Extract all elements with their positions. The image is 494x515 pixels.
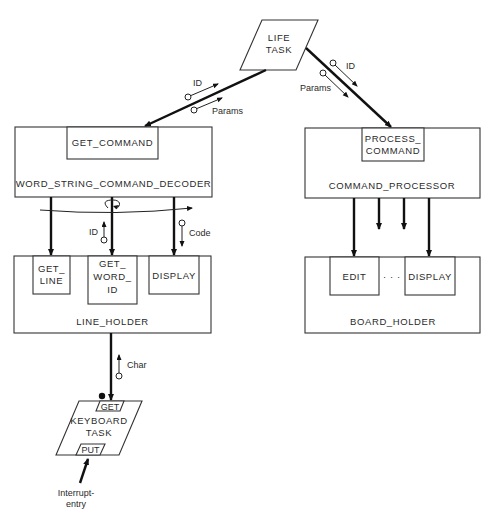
life-task-label-1: LIFE [268,32,290,43]
data-couple-icon [101,237,107,243]
get-word-id-label-2: WORD_ [93,271,131,282]
char-label: Char [127,360,147,370]
data-couple-icon [179,220,185,226]
left-id-label: ID [193,78,203,88]
line-display-label: DISPLAY [152,270,196,281]
board-display-label: DISPLAY [408,271,452,282]
code-label: Code [189,228,211,238]
interrupt-arrow [80,459,88,483]
word-id-label: ID [89,227,99,237]
get-entry-label: GET [101,402,120,412]
char-flow: Char [116,355,147,379]
life-task-label-2: TASK [266,44,293,55]
board-holder-label: BOARD_HOLDER [350,316,436,327]
left-params-label: Params [212,106,244,116]
get-command-label: GET_COMMAND [72,137,154,148]
left-id-flow: ID [185,78,218,100]
data-couple-icon [185,94,191,100]
data-couple-icon [191,107,197,113]
process-command-label-2: COMMAND [366,145,420,156]
ellipsis: · · · [383,271,401,282]
right-params-flow: Params [300,70,348,97]
processor-package: PROCESS_ COMMAND COMMAND_PROCESSOR [305,128,480,198]
get-word-id-label-3: ID [107,284,118,295]
edit-label: EDIT [342,271,366,282]
right-params-label: Params [300,83,332,93]
line-holder-package: GET_ LINE GET_ WORD_ ID DISPLAY LINE_HOL… [14,256,211,333]
code-flow: Code [179,220,211,246]
put-entry-label: PUT [82,445,101,455]
keyboard-task-label-1: KEYBOARD [70,415,128,426]
decoder-label: WORD_STRING_COMMAND_DECODER [16,178,212,189]
process-command-label-1: PROCESS_ [365,133,422,144]
word-id-flow: ID [89,222,107,243]
control-flag-icon [99,393,105,399]
decoder-package: GET_COMMAND WORD_STRING_COMMAND_DECODER [15,127,212,197]
data-couple-icon [116,373,122,379]
get-word-id-label-1: GET_ [99,258,126,269]
processor-label: COMMAND_PROCESSOR [329,180,455,191]
interrupt-label-2: entry [66,499,87,509]
line-holder-label: LINE_HOLDER [76,316,149,327]
right-id-label: ID [346,61,356,71]
board-holder-package: EDIT · · · DISPLAY BOARD_HOLDER [305,257,480,333]
interrupt-label-1: Interrupt- [58,488,95,498]
keyboard-task-label-2: TASK [86,427,113,438]
call-arrow-life-to-get-command [145,70,266,126]
get-line-label-1: GET_ [38,263,65,274]
keyboard-task-node: GET KEYBOARD TASK PUT [56,401,142,455]
structure-diagram: LIFE TASK ID Params ID Params GET_COMMAN… [0,0,494,515]
life-task-node: LIFE TASK [240,20,318,70]
get-line-label-2: LINE [40,275,64,286]
